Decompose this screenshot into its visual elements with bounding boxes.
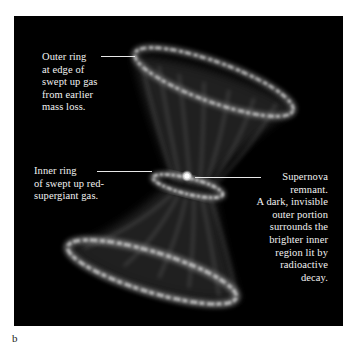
- panel-letter: b: [12, 332, 18, 344]
- inner-ring-label: Inner ring of swept up red- supergiant g…: [34, 165, 104, 203]
- supernova-remnant-core: [181, 170, 193, 182]
- leader-line-inner-ring: [97, 171, 152, 172]
- leader-line-outer-ring: [101, 56, 135, 57]
- supernova-label: Supernova remnant. A dark, invisible out…: [257, 171, 328, 284]
- outer-ring-label: Outer ring at edge of swept up gas from …: [42, 51, 97, 114]
- leader-line-supernova: [195, 177, 261, 178]
- figure-panel: Outer ring at edge of swept up gas from …: [14, 16, 343, 326]
